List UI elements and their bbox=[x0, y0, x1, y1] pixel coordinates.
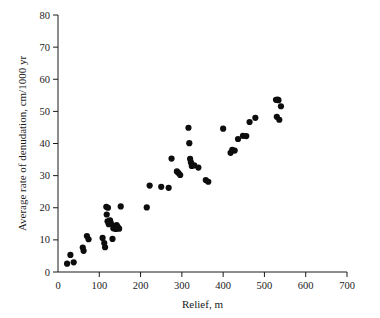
x-axis-tick-label: 700 bbox=[339, 280, 355, 291]
data-point bbox=[220, 126, 226, 132]
data-point bbox=[177, 172, 183, 178]
data-point bbox=[252, 115, 258, 121]
data-point bbox=[144, 204, 150, 210]
x-axis-title: Relief, m bbox=[182, 298, 223, 310]
scatter-plot-figure: 010203040506070800100200300400500600700R… bbox=[0, 0, 380, 318]
x-axis-tick-label: 0 bbox=[55, 280, 60, 291]
data-point bbox=[195, 164, 201, 170]
y-axis-tick-label: 60 bbox=[40, 74, 51, 85]
data-point bbox=[102, 244, 108, 250]
x-axis-tick-label: 400 bbox=[215, 280, 231, 291]
x-axis-tick-label: 200 bbox=[133, 280, 149, 291]
x-axis-tick-label: 600 bbox=[298, 280, 314, 291]
x-axis-tick-label: 500 bbox=[257, 280, 273, 291]
y-axis-tick-label: 10 bbox=[40, 234, 51, 245]
y-axis-tick-label: 40 bbox=[40, 138, 51, 149]
data-point bbox=[71, 259, 77, 265]
data-point bbox=[276, 117, 282, 123]
y-axis-tick-label: 50 bbox=[40, 106, 51, 117]
y-axis-tick-label: 20 bbox=[40, 202, 51, 213]
y-axis-tick-label: 70 bbox=[40, 42, 51, 53]
data-point bbox=[64, 261, 70, 267]
data-point bbox=[67, 252, 73, 258]
x-axis-tick-label: 300 bbox=[174, 280, 190, 291]
data-point bbox=[205, 179, 211, 185]
data-point bbox=[81, 248, 87, 254]
x-axis-tick-label: 100 bbox=[91, 280, 107, 291]
data-point bbox=[186, 140, 192, 146]
data-point bbox=[168, 156, 174, 162]
y-axis-title: Average rate of denudation, cm/1000 yr bbox=[16, 56, 28, 231]
data-point bbox=[158, 184, 164, 190]
y-axis-tick-label: 0 bbox=[45, 267, 50, 278]
data-point bbox=[246, 119, 252, 125]
data-point bbox=[166, 185, 172, 191]
data-point bbox=[105, 205, 111, 211]
axes-frame bbox=[58, 15, 347, 272]
data-point bbox=[275, 97, 281, 103]
data-point bbox=[232, 147, 238, 153]
data-point bbox=[118, 203, 124, 209]
relief-vs-denudation-scatter-chart: 010203040506070800100200300400500600700R… bbox=[0, 0, 380, 318]
data-point bbox=[104, 211, 110, 217]
y-axis-tick-label: 80 bbox=[40, 10, 51, 21]
data-point-series bbox=[64, 96, 284, 266]
y-axis-tick-label: 30 bbox=[40, 170, 51, 181]
data-point bbox=[109, 236, 115, 242]
data-point bbox=[185, 125, 191, 131]
data-point bbox=[243, 133, 249, 139]
data-point bbox=[278, 103, 284, 109]
data-point bbox=[85, 236, 91, 242]
data-point bbox=[147, 182, 153, 188]
data-point bbox=[116, 226, 122, 232]
